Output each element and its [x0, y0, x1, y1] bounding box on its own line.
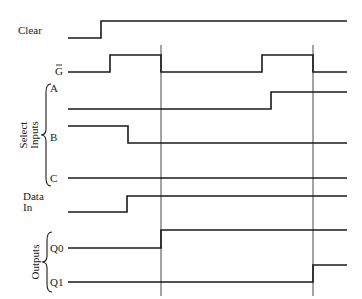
outputs-label: Outputs [29, 245, 41, 280]
markers-layer [161, 45, 313, 296]
q0-label: Q0 [50, 242, 64, 254]
select-a-waveform [68, 92, 347, 109]
select-a-label: A [50, 82, 58, 94]
q1-label: Q1 [50, 276, 63, 288]
braces-layer: SelectInputsOutputs [17, 84, 52, 292]
q1-waveform [68, 265, 347, 282]
select-c-label: C [50, 172, 57, 184]
g-bar-label: G [55, 65, 63, 77]
data-in-label: In [23, 201, 33, 213]
clear-waveform [68, 21, 347, 38]
waveforms-layer [68, 21, 347, 282]
g-bar-waveform [68, 55, 347, 72]
timing-diagram: ClearGABCDataInQ0Q1 SelectInputsOutputs [0, 0, 362, 299]
select-b-waveform [68, 126, 347, 143]
data-in-waveform [68, 196, 347, 212]
select-b-label: B [50, 131, 57, 143]
clear-label: Clear [18, 24, 42, 36]
select-inputs-label: Inputs [28, 121, 40, 149]
q0-waveform [68, 230, 347, 248]
